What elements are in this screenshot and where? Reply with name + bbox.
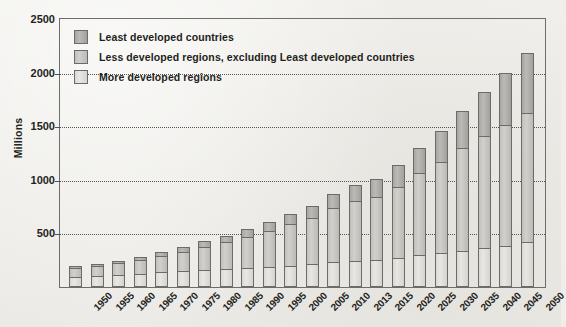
bar-2020 xyxy=(392,165,405,287)
x-tick-2050: 2050 xyxy=(543,290,566,313)
bar-segment xyxy=(349,185,362,201)
legend-item-0: Least developed countries xyxy=(74,28,415,46)
bar-segment xyxy=(413,148,426,174)
bar-2005 xyxy=(306,206,319,287)
bar-segment xyxy=(263,222,276,231)
bar-segment xyxy=(521,113,534,242)
x-tick-1950: 1950 xyxy=(91,290,114,313)
chart-legend: Least developed countriesLess developed … xyxy=(74,28,415,86)
bar-segment xyxy=(327,262,340,287)
x-tick-1985: 1985 xyxy=(242,290,265,313)
x-tick-1955: 1955 xyxy=(113,290,136,313)
bar-segment xyxy=(392,165,405,186)
legend-label: More developed regions xyxy=(99,71,222,83)
legend-label: Least developed countries xyxy=(99,31,234,43)
bar-2000 xyxy=(284,214,297,287)
legend-label: Less developed regions, excluding Least … xyxy=(99,51,415,63)
x-tick-2045: 2045 xyxy=(521,290,544,313)
bar-segment xyxy=(241,229,254,237)
bar-segment xyxy=(284,224,297,265)
bar-segment xyxy=(284,214,297,225)
bar-segment xyxy=(198,270,211,287)
y-tick-1500: 1500 xyxy=(3,120,55,132)
bar-2025 xyxy=(413,148,426,287)
bar-segment xyxy=(349,261,362,287)
x-tick-2013: 2013 xyxy=(371,290,394,313)
bar-segment xyxy=(456,251,469,287)
bar-1955 xyxy=(91,264,104,287)
bar-1975 xyxy=(177,247,190,287)
bar-segment xyxy=(499,73,512,124)
bar-segment xyxy=(478,248,491,287)
x-tick-1980: 1980 xyxy=(220,290,243,313)
bar-segment xyxy=(177,252,190,271)
x-tick-2005: 2005 xyxy=(328,290,351,313)
y-tick-2500: 2500 xyxy=(3,13,55,25)
bar-2040 xyxy=(478,92,491,287)
bar-segment xyxy=(392,187,405,258)
bar-segment xyxy=(521,242,534,287)
x-tick-2025: 2025 xyxy=(435,290,458,313)
bar-segment xyxy=(284,266,297,287)
bar-2050 xyxy=(521,53,534,287)
bar-segment xyxy=(91,266,104,276)
x-tick-2020: 2020 xyxy=(414,290,437,313)
bar-1995 xyxy=(263,222,276,287)
bar-segment xyxy=(306,264,319,287)
bar-2045 xyxy=(499,73,512,287)
bar-segment xyxy=(177,271,190,287)
bar-segment xyxy=(69,268,82,277)
y-tick-1000: 1000 xyxy=(3,174,55,186)
bar-segment xyxy=(435,131,448,162)
x-tick-2010: 2010 xyxy=(349,290,372,313)
legend-swatch-icon xyxy=(74,50,88,64)
bar-segment xyxy=(435,253,448,287)
bar-segment xyxy=(327,208,340,262)
bar-segment xyxy=(306,206,319,218)
bar-1990 xyxy=(241,229,254,287)
bar-segment xyxy=(478,92,491,136)
bar-2035 xyxy=(456,111,469,287)
bar-segment xyxy=(69,277,82,287)
bar-segment xyxy=(155,256,168,272)
bar-segment xyxy=(435,162,448,253)
x-tick-2000: 2000 xyxy=(306,290,329,313)
bar-segment xyxy=(155,272,168,287)
bar-segment xyxy=(478,136,491,249)
bar-segment xyxy=(241,268,254,287)
bar-segment xyxy=(413,173,426,254)
bar-segment xyxy=(134,260,147,273)
bar-segment xyxy=(134,274,147,287)
x-tick-2040: 2040 xyxy=(500,290,523,313)
y-axis-tick-labels: 5001000150020002500 xyxy=(0,0,55,327)
bar-segment xyxy=(91,276,104,287)
bar-1960 xyxy=(112,261,125,287)
bar-segment xyxy=(198,247,211,270)
bar-segment xyxy=(413,255,426,287)
bar-2013 xyxy=(349,185,362,287)
legend-swatch-icon xyxy=(74,70,88,84)
x-tick-2015: 2015 xyxy=(392,290,415,313)
bar-1980 xyxy=(198,241,211,287)
legend-swatch-icon xyxy=(74,30,88,44)
bar-segment xyxy=(263,231,276,266)
x-tick-1960: 1960 xyxy=(134,290,157,313)
x-tick-1965: 1965 xyxy=(156,290,179,313)
bar-segment xyxy=(392,258,405,287)
bar-segment xyxy=(499,125,512,246)
y-tick-2000: 2000 xyxy=(3,67,55,79)
x-axis-tick-labels: 1950195519601965197019751980198519901995… xyxy=(59,290,546,327)
bar-segment xyxy=(112,275,125,287)
bar-segment xyxy=(327,194,340,208)
x-tick-1975: 1975 xyxy=(199,290,222,313)
bar-2010 xyxy=(327,194,340,287)
bar-1985 xyxy=(220,236,233,287)
bar-1950 xyxy=(69,266,82,287)
bar-segment xyxy=(306,218,319,264)
x-tick-2030: 2030 xyxy=(457,290,480,313)
bar-segment xyxy=(241,237,254,268)
bar-segment xyxy=(370,260,383,287)
bar-segment xyxy=(349,201,362,261)
bar-segment xyxy=(220,242,233,269)
